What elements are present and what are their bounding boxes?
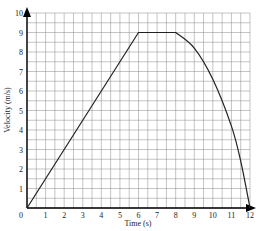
y-tick-label: 5 [19, 107, 23, 116]
x-tick-label: 2 [62, 211, 66, 220]
y-tick-label: 4 [19, 126, 23, 135]
grid [27, 13, 250, 208]
x-tick-label: 10 [209, 211, 217, 220]
x-tick-label: 8 [174, 211, 178, 220]
x-tick-label: 11 [228, 211, 236, 220]
x-tick-label: 7 [155, 211, 159, 220]
y-tick-label: 6 [19, 87, 23, 96]
y-axis-arrow-icon [23, 7, 31, 17]
y-tick-label: 8 [19, 48, 23, 57]
y-tick-label: 10 [15, 9, 23, 18]
y-tick-label: 7 [19, 68, 23, 77]
y-tick-label: 3 [19, 146, 23, 155]
y-tick-label: 2 [19, 165, 23, 174]
axes [23, 7, 256, 212]
x-tick-label: 0 [19, 211, 23, 220]
x-tick-label: 3 [81, 211, 85, 220]
x-tick-label: 1 [44, 211, 48, 220]
x-tick-label: 4 [99, 211, 103, 220]
x-tick-label: 12 [246, 211, 254, 220]
x-tick-label: 9 [192, 211, 196, 220]
y-tick-label: 9 [19, 29, 23, 38]
y-tick-label: 1 [19, 185, 23, 194]
y-axis-label: Velocity (m/s) [3, 87, 12, 133]
x-axis-label: Time (s) [124, 219, 151, 228]
velocity-time-chart: 012345678910111212345678910 Time (s) Vel… [0, 0, 261, 231]
x-tick-label: 5 [118, 211, 122, 220]
